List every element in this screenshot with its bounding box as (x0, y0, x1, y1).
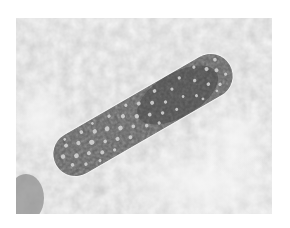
micrograph-image (16, 18, 272, 214)
micrograph-svg (16, 18, 272, 214)
